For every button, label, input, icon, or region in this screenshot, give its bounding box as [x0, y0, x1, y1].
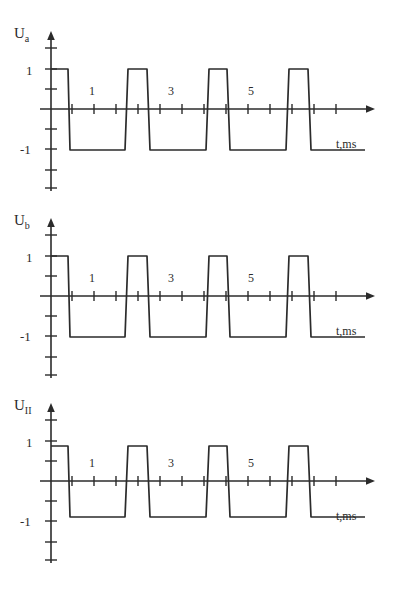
- x-axis-title-ub: t,ms: [336, 324, 356, 339]
- waveform-svg-u2: [0, 390, 399, 586]
- y-tick-label-bottom-ub: -1: [20, 329, 31, 345]
- period-marker-5-ua: 5: [248, 84, 254, 99]
- x-axis-arrow-ua: [366, 105, 375, 113]
- y-axis-title-ua: Ua: [14, 25, 29, 44]
- period-marker-1-u2: 1: [89, 456, 95, 471]
- x-axis-title-ua: t,ms: [336, 137, 356, 152]
- period-marker-1-ub: 1: [89, 271, 95, 286]
- y-tick-label-bottom-ua: -1: [20, 142, 31, 158]
- y-axis-arrow-ub: [47, 218, 55, 227]
- y-axis-title-ub: Ub: [14, 212, 30, 231]
- x-axis-arrow-ub: [366, 292, 375, 300]
- period-marker-3-ub: 3: [168, 271, 174, 286]
- period-marker-3-ua: 3: [168, 84, 174, 99]
- y-axis-title-u2: UII: [14, 397, 32, 416]
- period-marker-5-ub: 5: [248, 271, 254, 286]
- x-axis-arrow-u2: [366, 477, 375, 485]
- waveform-panel-u2: UII 1 -1 1 3 5 t,ms: [0, 390, 399, 586]
- waveform-svg-ua: [0, 18, 399, 214]
- y-tick-label-top-u2: 1: [26, 435, 33, 451]
- period-marker-3-u2: 3: [168, 456, 174, 471]
- waveform-panel-ub: Ub 1 -1 1 3 5 t,ms: [0, 205, 399, 401]
- period-marker-5-u2: 5: [248, 456, 254, 471]
- waveform-panel-ua: Ua 1 -1 1 3 5 t,ms: [0, 18, 399, 214]
- y-tick-label-top-ua: 1: [26, 63, 33, 79]
- period-marker-1-ua: 1: [89, 84, 95, 99]
- y-tick-label-top-ub: 1: [26, 250, 33, 266]
- x-axis-title-u2: t,ms: [336, 509, 356, 524]
- y-tick-label-bottom-u2: -1: [20, 514, 31, 530]
- y-axis-arrow-u2: [47, 403, 55, 412]
- waveform-svg-ub: [0, 205, 399, 401]
- y-axis-arrow-ua: [47, 31, 55, 40]
